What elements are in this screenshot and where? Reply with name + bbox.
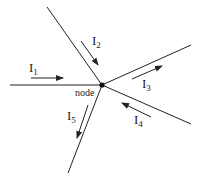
branch-5-wire (68, 85, 102, 173)
current-2-label: I2 (92, 33, 101, 50)
current-3-arrow-icon (132, 66, 162, 79)
current-1-label: I1 (29, 60, 38, 77)
current-5-arrow-icon (77, 105, 88, 138)
node-dot (99, 82, 104, 87)
current-3-label: I3 (142, 76, 151, 93)
node-label: node (75, 87, 95, 98)
branch-3-wire (102, 45, 191, 85)
current-5-label: I5 (67, 108, 76, 125)
kcl-node-diagram: I1 I2 I3 I4 I5 node (0, 0, 199, 180)
current-4-label: I4 (134, 112, 143, 129)
